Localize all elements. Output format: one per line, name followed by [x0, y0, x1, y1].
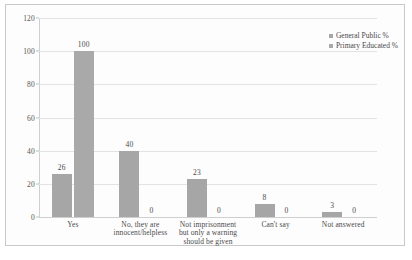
y-tick-mark-100: [36, 51, 39, 52]
legend-label: Primary Educated %: [336, 41, 398, 51]
y-tick-mark-60: [36, 117, 39, 118]
bar-1-0[interactable]: [74, 51, 94, 217]
category-label-line: Not answered: [301, 221, 385, 229]
bar-value-label: 0: [352, 206, 356, 215]
y-tick-label-120: 120: [11, 14, 35, 23]
chart-legend: General Public %Primary Educated %: [329, 31, 398, 51]
bar-value-label: 100: [78, 40, 90, 49]
bar-0-2[interactable]: [187, 179, 207, 217]
y-tick-label-80: 80: [11, 80, 35, 89]
bar-group: 400: [107, 18, 175, 217]
legend-label: General Public %: [336, 31, 389, 41]
bar-value-label: 0: [149, 206, 153, 215]
y-tick-mark-120: [36, 18, 39, 19]
y-tick-mark-0: [36, 217, 39, 218]
category-label-line: should be given: [166, 238, 250, 246]
y-axis-labels: 020406080100120: [10, 18, 35, 217]
bar-value-label: 0: [285, 206, 289, 215]
y-tick-mark-40: [36, 150, 39, 151]
y-tick-label-20: 20: [11, 179, 35, 188]
legend-swatch-icon: [329, 34, 333, 38]
bar-value-label: 40: [125, 140, 133, 149]
chart-figure: 020406080100120 261004002308030 General …: [5, 4, 405, 246]
legend-item[interactable]: Primary Educated %: [329, 41, 398, 51]
y-tick-mark-20: [36, 183, 39, 184]
legend-item[interactable]: General Public %: [329, 31, 398, 41]
bar-value-label: 0: [217, 206, 221, 215]
category-label-4: Not answered: [301, 221, 385, 229]
bar-value-label: 3: [330, 201, 334, 210]
bar-0-1[interactable]: [119, 151, 139, 217]
bar-0-4[interactable]: [322, 212, 342, 217]
plot-area: 261004002308030: [39, 18, 377, 217]
y-tick-label-40: 40: [11, 146, 35, 155]
y-tick-mark-80: [36, 84, 39, 85]
gridline-0: [39, 217, 377, 218]
bar-group: 230: [174, 18, 242, 217]
bar-value-label: 8: [263, 193, 267, 202]
bar-group: 80: [242, 18, 310, 217]
bar-value-label: 23: [193, 168, 201, 177]
bar-value-label: 26: [58, 163, 66, 172]
y-tick-label-100: 100: [11, 47, 35, 56]
bar-0-0[interactable]: [52, 174, 72, 217]
y-tick-label-60: 60: [11, 113, 35, 122]
bar-group: 26100: [39, 18, 107, 217]
bar-0-3[interactable]: [255, 204, 275, 217]
legend-swatch-icon: [329, 44, 333, 48]
